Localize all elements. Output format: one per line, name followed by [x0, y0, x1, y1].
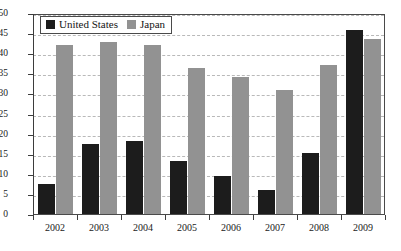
x-tick-label-2004: 2004: [120, 223, 166, 233]
y-tick-mark-30: [28, 94, 33, 95]
legend-entry-united-states: United States: [46, 19, 118, 30]
legend-label-japan: Japan: [140, 19, 165, 30]
bar-united-states-2009: [346, 30, 363, 214]
legend-swatch-japan-icon: [127, 20, 136, 29]
x-tick-mark-7: [341, 215, 342, 220]
legend-swatch-united-states-icon: [46, 20, 55, 29]
y-tick-mark-20: [28, 135, 33, 136]
bar-japan-2004: [144, 45, 161, 214]
y-tick-mark-15: [28, 155, 33, 156]
y-tick-mark-10: [28, 175, 33, 176]
y-tick-label-15: 15: [0, 150, 8, 160]
bar-united-states-2008: [302, 153, 319, 214]
y-tick-label-35: 35: [0, 69, 8, 79]
bar-united-states-2003: [82, 144, 99, 214]
x-tick-mark-4: [209, 215, 210, 220]
x-tick-mark-5: [253, 215, 254, 220]
bar-japan-2005: [188, 68, 205, 214]
x-tick-label-2009: 2009: [340, 223, 386, 233]
y-tick-label-20: 20: [0, 130, 8, 140]
legend-entry-japan: Japan: [127, 19, 165, 30]
gridline-45: [33, 35, 384, 36]
y-tick-label-40: 40: [0, 49, 8, 59]
y-tick-label-30: 30: [0, 89, 8, 99]
y-tick-label-25: 25: [0, 110, 8, 120]
y-tick-label-10: 10: [0, 170, 8, 180]
y-tick-label-50: 50: [0, 9, 8, 19]
x-tick-label-2003: 2003: [76, 223, 122, 233]
x-tick-label-2002: 2002: [32, 223, 78, 233]
y-axis-line: [33, 14, 34, 216]
x-tick-label-2005: 2005: [164, 223, 210, 233]
gridline-40: [33, 55, 384, 56]
y-tick-label-45: 45: [0, 29, 8, 39]
chart-legend: United States Japan: [40, 16, 172, 34]
x-tick-mark-6: [297, 215, 298, 220]
bar-chart: 05101520253035404550 2002200320042005200…: [0, 0, 401, 251]
x-tick-label-2008: 2008: [296, 223, 342, 233]
y-tick-mark-45: [28, 34, 33, 35]
bar-united-states-2002: [38, 184, 55, 214]
bar-japan-2008: [320, 65, 337, 214]
bar-japan-2007: [276, 90, 293, 214]
y-tick-mark-50: [28, 14, 33, 15]
x-tick-mark-3: [165, 215, 166, 220]
y-tick-mark-25: [28, 115, 33, 116]
legend-label-united-states: United States: [59, 19, 118, 30]
bar-united-states-2007: [258, 190, 275, 214]
bar-united-states-2006: [214, 176, 231, 214]
bar-japan-2002: [56, 45, 73, 214]
bar-japan-2003: [100, 42, 117, 214]
bar-japan-2009: [364, 39, 381, 214]
x-tick-label-2006: 2006: [208, 223, 254, 233]
plot-area: [33, 14, 385, 215]
bar-united-states-2005: [170, 161, 187, 214]
y-tick-label-0: 0: [0, 210, 8, 220]
y-tick-mark-5: [28, 195, 33, 196]
y-tick-label-5: 5: [0, 190, 8, 200]
x-tick-mark-1: [77, 215, 78, 220]
y-tick-mark-40: [28, 54, 33, 55]
x-tick-mark-0: [33, 215, 34, 220]
bar-united-states-2004: [126, 141, 143, 214]
x-tick-mark-8: [385, 215, 386, 220]
y-tick-mark-35: [28, 74, 33, 75]
x-tick-mark-2: [121, 215, 122, 220]
bar-japan-2006: [232, 77, 249, 214]
x-tick-label-2007: 2007: [252, 223, 298, 233]
